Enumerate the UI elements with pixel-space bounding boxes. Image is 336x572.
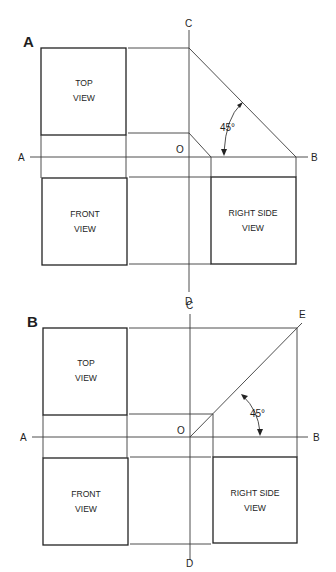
panel-b-label: B [27, 313, 38, 330]
panel-b-right-side-view-box [213, 457, 297, 543]
panel-b-label-d: D [186, 558, 193, 569]
panel-a-front-view-label-2: VIEW [74, 224, 97, 234]
panel-b-label-c: C [186, 300, 193, 311]
panel-a-label: A [23, 33, 34, 50]
panel-a-top-view-box [41, 48, 126, 135]
panel-a-label-b: B [311, 152, 318, 163]
panel-b-top-view-label-2: VIEW [75, 373, 98, 383]
panel-a-label-a: A [18, 152, 25, 163]
panel-b-top-view-label-1: TOP [77, 358, 95, 368]
panel-b-top-view-box [43, 328, 127, 415]
panel-b-label-e: E [299, 309, 306, 320]
panel-b-angle-arrow-upper [241, 394, 248, 400]
panel-a: A TOP VIEW FRONT VIEW RIGHT SIDE VIEW [18, 18, 318, 307]
panel-b-angle-label: 45° [250, 408, 265, 419]
orthographic-projection-diagram: A TOP VIEW FRONT VIEW RIGHT SIDE VIEW [0, 0, 336, 572]
panel-a-front-view-box [42, 178, 127, 265]
panel-a-top-view-label-2: VIEW [73, 93, 96, 103]
panel-b-miter-line [190, 323, 302, 437]
panel-a-right-side-view-box [211, 177, 296, 264]
panel-a-right-view-label-2: VIEW [242, 223, 265, 233]
panel-a-right-view-label-1: RIGHT SIDE [228, 208, 277, 218]
panel-b-angle-arrow-lower [257, 429, 263, 436]
panel-a-angle-label: 45° [220, 122, 235, 133]
panel-a-front-view-label-1: FRONT [70, 209, 100, 219]
panel-b-label-o: O [177, 425, 185, 436]
panel-b-front-view-label-1: FRONT [71, 489, 101, 499]
panel-a-top-view-label-1: TOP [75, 78, 93, 88]
panel-a-label-c: C [185, 18, 192, 29]
panel-b-front-view-label-2: VIEW [75, 504, 98, 514]
panel-a-label-o: O [176, 144, 184, 155]
panel-b-front-view-box [43, 458, 128, 545]
panel-a-angle-arrow-lower [221, 149, 227, 156]
panel-a-miter-inner [189, 133, 211, 157]
panel-b-right-view-label-1: RIGHT SIDE [230, 488, 279, 498]
panel-b-label-a: A [20, 432, 27, 443]
panel-b: B TOP VIEW FRONT VIEW RIGHT SIDE VIEW [20, 300, 320, 569]
panel-b-right-view-label-2: VIEW [244, 503, 267, 513]
panel-b-label-b: B [313, 432, 320, 443]
